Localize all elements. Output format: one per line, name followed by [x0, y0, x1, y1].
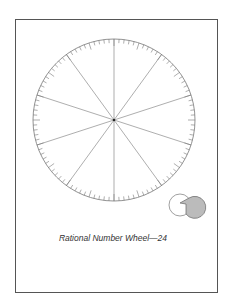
rational-number-wheel: [0, 0, 226, 305]
caption: Rational Number Wheel—24: [0, 233, 226, 243]
